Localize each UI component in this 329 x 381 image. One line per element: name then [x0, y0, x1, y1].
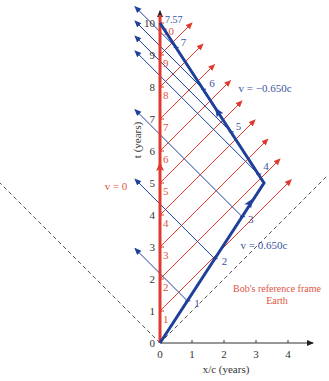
t-tick-label: 4 — [150, 209, 156, 221]
x-tick-label: 1 — [189, 348, 195, 360]
earth-tick-label: 3 — [163, 249, 169, 261]
x-tick-label: 2 — [221, 348, 227, 360]
earth-signal-line — [160, 101, 242, 183]
bob-tick-label: 6 — [209, 77, 215, 89]
t-tick-label: 10 — [144, 17, 156, 29]
t-tick-label: 3 — [150, 241, 156, 253]
earth-tick-label: 1 — [163, 313, 169, 325]
earth-tick-label: 9 — [163, 57, 169, 69]
earth-tick-label: 5 — [163, 185, 169, 197]
t-tick-label: 7 — [150, 113, 156, 125]
annotation-line-2: Earth — [266, 295, 288, 306]
earth-signal-line — [160, 120, 255, 215]
bob-tick-label: 3 — [248, 213, 254, 225]
diagram-canvas: 01234012345678910 123456789101234567 x/c… — [0, 0, 329, 381]
x-tick-label: 4 — [285, 348, 291, 360]
bob-tick-label: 7 — [181, 36, 187, 48]
light-cone-left — [0, 183, 160, 343]
light-cone-right — [160, 177, 326, 343]
t-tick-label: 0 — [150, 337, 156, 349]
earth-tick-label: 2 — [163, 281, 169, 293]
x-axis-title: x/c (years) — [203, 363, 250, 376]
earth-signal-line — [160, 159, 280, 279]
earth-tick-label: 8 — [163, 89, 169, 101]
bob-tick-label: 5 — [236, 120, 242, 132]
spacetime-diagram: 01234012345678910 123456789101234567 x/c… — [0, 0, 329, 381]
earth-tick-label: 6 — [163, 153, 169, 165]
bob-tick-label: 1 — [194, 297, 200, 309]
earth-tick-label: 7 — [163, 121, 169, 133]
t-tick-label: 5 — [150, 177, 156, 189]
bob-tick-label: 2 — [222, 255, 228, 267]
x-tick-label: 0 — [157, 348, 163, 360]
t-tick-label: 9 — [150, 49, 156, 61]
x-tick-label: 3 — [253, 348, 259, 360]
t-tick-label: 6 — [150, 145, 156, 157]
earth-tick-label: 4 — [163, 217, 169, 229]
t-tick-label: 1 — [150, 305, 156, 317]
bob-outbound-velocity-label: v = 0.650c — [241, 239, 288, 251]
bob-signal-line — [135, 179, 215, 259]
axes: 01234012345678910 — [144, 11, 313, 360]
y-axis-title: t (years) — [131, 121, 144, 158]
bob-tick-label: 4 — [263, 160, 269, 172]
labels: x/c (years) t (years) v = 0 v = −0.650c … — [105, 14, 322, 376]
bob-total-proper-time: 7.57 — [165, 14, 183, 25]
annotation-line-1: Bob's reference frame — [233, 283, 321, 294]
t-tick-label: 2 — [150, 273, 156, 285]
bob-return-velocity-label: v = −0.650c — [238, 82, 291, 94]
earth-signal-line — [160, 139, 268, 247]
earth-velocity-label: v = 0 — [105, 180, 128, 192]
t-tick-label: 8 — [150, 81, 156, 93]
